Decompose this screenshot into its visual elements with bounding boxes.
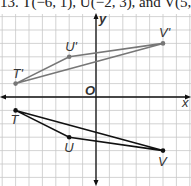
vertex-label-v-prime: V' <box>159 25 171 40</box>
origin-label: O <box>85 83 95 98</box>
coordinate-plane: yxOT'U'V'TUV <box>0 0 191 186</box>
triangle-t-primeu-primev-prime <box>16 43 163 83</box>
vertex-label-v: V <box>158 154 168 169</box>
vertex-label-t: T <box>11 112 20 127</box>
vertex-label-t-prime: T' <box>13 66 24 81</box>
vertex-u <box>67 135 72 140</box>
y-axis-label: y <box>98 11 107 26</box>
triangle-tuv <box>16 110 163 150</box>
x-axis-arrow-left-icon <box>0 95 6 100</box>
vertex-label-u: U <box>64 140 74 155</box>
y-axis-arrow-down-icon <box>94 180 99 186</box>
y-axis-arrow-up-icon <box>94 13 99 19</box>
x-axis-label: x <box>181 95 189 110</box>
vertex-t-prime <box>13 81 18 86</box>
vertex-label-u-prime: U' <box>65 39 77 54</box>
vertex-v <box>161 148 166 153</box>
vertex-v-prime <box>161 41 166 46</box>
vertex-u-prime <box>67 55 72 60</box>
